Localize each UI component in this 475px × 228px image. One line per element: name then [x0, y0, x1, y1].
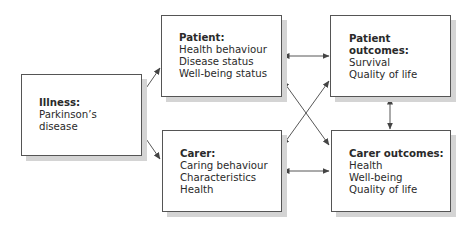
node-patient: Patient: Health behaviour Disease status…: [161, 15, 282, 97]
node-carer-outcomes: Carer outcomes: Health Well-being Qualit…: [331, 130, 451, 212]
node-illness-line: Parkinson’s: [39, 109, 141, 121]
node-patient-line: Health behaviour: [179, 44, 281, 56]
node-patient-title: Patient:: [179, 32, 281, 44]
node-carer-outcomes-line: Health: [349, 160, 450, 172]
node-patient-outcomes-title: Patient outcomes:: [349, 33, 450, 57]
arrow-illness-to-patient: [142, 68, 160, 94]
diagram-canvas: Illness: Parkinson’s disease Patient: He…: [0, 0, 475, 228]
node-carer-title: Carer:: [180, 148, 281, 160]
node-carer-outcomes-title: Carer outcomes:: [349, 148, 450, 160]
node-carer-outcomes-line: Quality of life: [349, 184, 450, 196]
node-carer-line: Health: [180, 184, 281, 196]
node-illness-line: disease: [39, 121, 141, 133]
node-patient-outcomes-line: Survival: [349, 57, 450, 69]
node-illness: Illness: Parkinson’s disease: [21, 74, 142, 156]
arrow-illness-to-carer: [142, 133, 160, 159]
node-patient-line: Disease status: [179, 56, 281, 68]
node-patient-outcomes-line: Quality of life: [349, 69, 450, 81]
node-carer-line: Characteristics: [180, 172, 281, 184]
node-illness-title: Illness:: [39, 97, 141, 109]
node-patient-outcomes: Patient outcomes: Survival Quality of li…: [330, 15, 451, 97]
node-patient-line: Well-being status: [179, 68, 281, 80]
node-carer: Carer: Caring behaviour Characteristics …: [162, 130, 282, 212]
node-carer-outcomes-line: Well-being: [349, 172, 450, 184]
node-carer-line: Caring behaviour: [180, 160, 281, 172]
